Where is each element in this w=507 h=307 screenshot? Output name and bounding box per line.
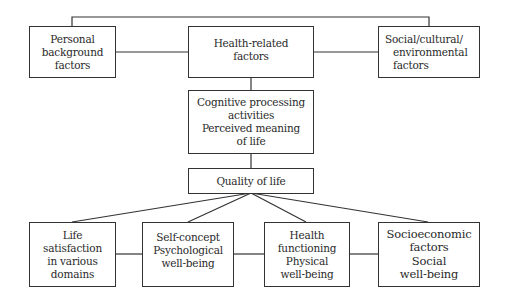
node-socioeconomic: Socioeconomic factors Social well-being [378, 222, 480, 287]
edge-quality-life [72, 193, 251, 222]
node-text: Health [290, 229, 325, 242]
node-text: well-being [280, 268, 333, 281]
node-text: environmental [385, 46, 468, 59]
node-health-functioning: Health functioning Physical well-being [264, 222, 350, 287]
node-text: Social/cultural/ [385, 33, 463, 46]
node-text: factors [233, 50, 269, 63]
edge-quality-self [188, 193, 251, 222]
node-text: in various [47, 255, 98, 268]
node-text: Socioeconomic [387, 228, 472, 242]
node-text: activities [228, 109, 274, 122]
node-text: Life [63, 229, 83, 242]
node-text: Cognitive processing [197, 96, 305, 109]
node-text: Psychological [153, 244, 223, 257]
node-quality-of-life: Quality of life [188, 168, 314, 194]
node-cognitive-processing: Cognitive processing activities Perceive… [188, 90, 314, 154]
node-text: Quality of life [216, 175, 285, 188]
node-personal-background: Personal background factors [29, 26, 116, 78]
node-text: domains [51, 268, 94, 281]
node-text: functioning [278, 242, 337, 255]
node-text: Self-concept [156, 231, 219, 244]
node-text: satisfaction [43, 242, 102, 255]
node-text: well-being [400, 268, 459, 282]
node-text: factors [385, 59, 429, 72]
node-text: Personal [50, 33, 94, 46]
node-social-cultural: Social/cultural/ environmental factors [378, 26, 480, 78]
edge-personal-social [72, 17, 429, 26]
node-text: Perceived meaning [202, 122, 300, 135]
node-text: background [42, 46, 104, 59]
node-text: Social [412, 255, 446, 269]
node-text: well-being [161, 257, 214, 270]
node-text: factors [409, 241, 448, 255]
node-text: factors [55, 59, 91, 72]
node-self-concept: Self-concept Psychological well-being [142, 222, 234, 287]
node-life-satisfaction: Life satisfaction in various domains [29, 222, 116, 287]
node-text: Health-related [214, 37, 289, 50]
node-text: of life [237, 135, 266, 148]
node-health-related: Health-related factors [188, 26, 314, 78]
node-text: Physical [286, 255, 328, 268]
